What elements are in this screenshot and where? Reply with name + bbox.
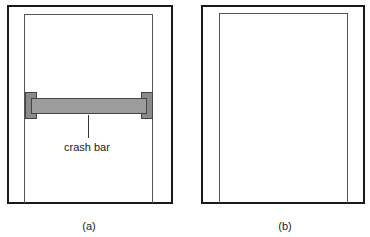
door-leaf-b bbox=[219, 13, 348, 203]
panel-a-caption: (a) bbox=[74, 220, 104, 232]
panel-b-caption: (b) bbox=[270, 220, 300, 232]
crash-bar-leader-line bbox=[88, 115, 89, 138]
crash-bar bbox=[31, 98, 147, 114]
crash-bar-label: crash bar bbox=[64, 141, 110, 153]
